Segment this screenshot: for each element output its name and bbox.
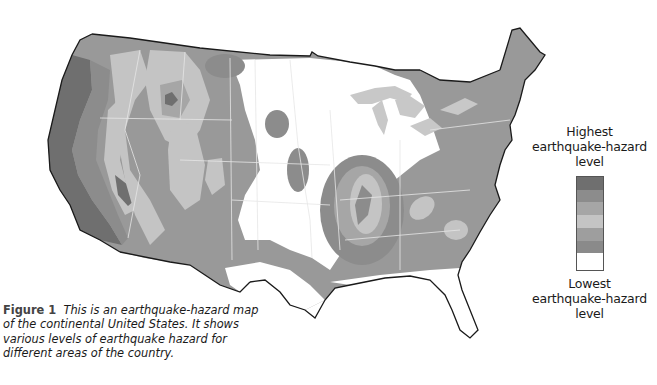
legend-lowest-label: Lowest earthquake-hazard level <box>522 276 657 321</box>
legend-color-scale <box>576 176 604 271</box>
legend-lowest-line-2: earthquake-hazard <box>522 291 657 306</box>
legend-highest-label: Highest earthquake-hazard level <box>522 124 657 169</box>
legend-lowest-line-3: level <box>522 306 657 321</box>
legend-swatch-level-6 <box>577 190 603 203</box>
legend-lowest-line-1: Lowest <box>522 276 657 291</box>
figure-caption: Figure 1 This is an earthquake-hazard ma… <box>3 303 263 360</box>
legend-swatch-level-2 <box>577 241 603 254</box>
legend-highest-line-2: earthquake-hazard <box>522 139 657 154</box>
legend-highest-line-3: level <box>522 154 657 169</box>
legend-swatch-level-7 <box>577 177 603 190</box>
legend-swatch-level-4 <box>577 215 603 228</box>
legend-swatch-level-5 <box>577 202 603 215</box>
legend-highest-line-1: Highest <box>522 124 657 139</box>
hazard-legend: Highest earthquake-hazard level Lowest e… <box>522 124 657 321</box>
legend-swatch-level-1 <box>577 253 603 270</box>
legend-swatch-level-3 <box>577 228 603 241</box>
figure-label: Figure 1 <box>3 303 56 317</box>
